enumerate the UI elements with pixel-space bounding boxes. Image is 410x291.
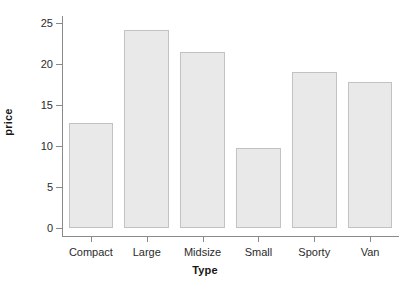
y-axis-line [62, 16, 63, 236]
x-axis-title: Type [0, 264, 410, 276]
y-axis-tick-label: 5 [47, 182, 53, 193]
bar-compact [69, 123, 114, 228]
x-axis-tick [147, 236, 148, 242]
y-axis-tick [56, 146, 62, 147]
bar-chart-plot: 2520151050 CompactLargeMidsizeSmallSport… [0, 0, 410, 291]
bar-sporty [292, 72, 337, 228]
y-axis-title: price [2, 92, 14, 152]
y-axis-tick-label: 0 [47, 223, 53, 234]
y-axis-tick [56, 187, 62, 188]
x-axis-tick-label: Large [133, 246, 161, 258]
x-axis-tick [91, 236, 92, 242]
y-axis-tick [56, 23, 62, 24]
bar-midsize [180, 52, 225, 228]
x-axis-tick [258, 236, 259, 242]
y-axis-tick [56, 105, 62, 106]
x-axis-tick [314, 236, 315, 242]
y-axis-tick [56, 228, 62, 229]
y-axis-tick-label: 15 [41, 100, 53, 111]
y-axis-tick-label: 10 [41, 141, 53, 152]
x-axis-line [62, 236, 399, 237]
bar-van [348, 82, 393, 228]
x-axis-tick-label: Van [361, 246, 380, 258]
x-axis-tick-label: Midsize [184, 246, 221, 258]
bar-small [236, 148, 281, 228]
chart-screenshot: 2520151050 CompactLargeMidsizeSmallSport… [0, 0, 410, 291]
y-axis-tick-label: 25 [41, 18, 53, 29]
x-axis-tick [203, 236, 204, 242]
y-axis-tick-label: 20 [41, 59, 53, 70]
x-axis-tick-label: Small [245, 246, 273, 258]
bar-large [124, 30, 169, 228]
x-axis-tick-label: Compact [69, 246, 113, 258]
y-axis-tick [56, 64, 62, 65]
x-axis-tick-label: Sporty [298, 246, 330, 258]
x-axis-tick [370, 236, 371, 242]
